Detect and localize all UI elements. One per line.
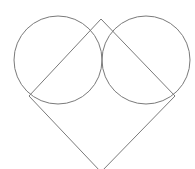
left-circle — [14, 16, 102, 104]
right-circle — [102, 16, 190, 104]
heart-diagram — [0, 0, 195, 169]
rotated-square — [29, 19, 175, 169]
